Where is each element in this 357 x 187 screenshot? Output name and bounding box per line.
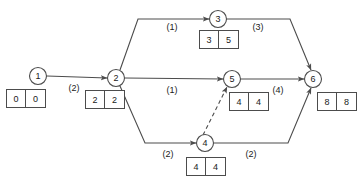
edge-duration-label-4-6: (2) <box>246 149 257 159</box>
early-time-node-3: 3 <box>200 31 219 48</box>
late-time-node-3: 5 <box>219 31 238 48</box>
node-label-4: 4 <box>202 138 207 148</box>
early-time-node-1: 0 <box>7 90 26 107</box>
edge-1-to-2 <box>47 76 107 78</box>
node-label-1: 1 <box>35 71 40 81</box>
edge-4-to-5 <box>203 87 227 135</box>
edge-2-to-5 <box>125 78 223 79</box>
node-label-5: 5 <box>229 74 234 84</box>
edge-3-to-6 <box>227 19 311 70</box>
edge-duration-label-3-6: (3) <box>253 22 264 32</box>
edge-2-to-4 <box>120 86 196 143</box>
time-box-node-6: 88 <box>317 92 357 111</box>
node-6[interactable]: 6 <box>305 71 322 88</box>
time-box-node-2: 22 <box>85 90 125 109</box>
late-time-node-2: 2 <box>105 91 124 108</box>
edge-duration-label-2-4: (2) <box>163 149 174 159</box>
time-box-node-4: 44 <box>186 157 226 176</box>
node-4[interactable]: 4 <box>197 135 214 152</box>
node-label-6: 6 <box>310 74 315 84</box>
edges-group <box>47 19 311 143</box>
edge-duration-label-2-3: (1) <box>167 22 178 32</box>
late-time-node-4: 4 <box>206 158 225 175</box>
early-time-node-5: 4 <box>230 93 249 110</box>
early-time-node-6: 8 <box>318 93 337 110</box>
early-time-node-4: 4 <box>187 158 206 175</box>
edge-duration-label-5-6: (4) <box>273 85 284 95</box>
early-time-node-2: 2 <box>86 91 105 108</box>
edge-duration-label-2-5: (1) <box>167 85 178 95</box>
network-diagram-canvas: 123456 (2)(1)(1)(2)(3)(4)(2) 00223544448… <box>0 0 357 187</box>
node-2[interactable]: 2 <box>108 70 125 87</box>
edge-2-to-3 <box>120 19 209 70</box>
network-diagram-svg: 123456 (2)(1)(1)(2)(3)(4)(2) <box>0 0 357 187</box>
late-time-node-6: 8 <box>337 93 356 110</box>
node-1[interactable]: 1 <box>30 68 47 85</box>
late-time-node-5: 4 <box>249 93 268 110</box>
time-box-node-1: 00 <box>6 89 46 108</box>
edge-duration-label-1-2: (2) <box>69 83 80 93</box>
late-time-node-1: 0 <box>26 90 45 107</box>
node-5[interactable]: 5 <box>224 71 241 88</box>
node-label-2: 2 <box>113 73 118 83</box>
node-label-3: 3 <box>215 14 220 24</box>
time-box-node-5: 44 <box>229 92 269 111</box>
time-box-node-3: 35 <box>199 30 239 49</box>
node-3[interactable]: 3 <box>210 11 227 28</box>
